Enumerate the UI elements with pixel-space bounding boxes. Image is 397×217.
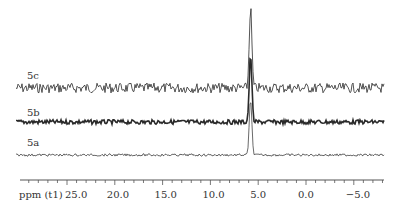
x-tick-label: 0.0 <box>298 189 314 200</box>
x-tick-label: 15.0 <box>155 189 177 200</box>
series-label-5c: 5c <box>27 70 39 81</box>
spectra-traces <box>16 9 384 157</box>
nmr-spectrum-chart: 5c 5b 5a 25.020.015.010.05.00.0−5.0 ppm … <box>0 0 397 217</box>
x-axis-label: ppm (t1) <box>19 189 63 200</box>
spectrum-trace-5b <box>16 59 384 124</box>
series-label-5b: 5b <box>27 107 40 118</box>
spectrum-trace-5a <box>16 103 384 156</box>
x-tick-label: 5.0 <box>250 189 266 200</box>
x-axis: 25.020.015.010.05.00.0−5.0 <box>20 180 384 200</box>
spectrum-trace-5c <box>16 9 384 93</box>
x-tick-label: 25.0 <box>65 189 87 200</box>
x-tick-label: −5.0 <box>346 189 370 200</box>
series-label-5a: 5a <box>27 137 39 148</box>
x-tick-label: 20.0 <box>107 189 129 200</box>
x-tick-label: 10.0 <box>202 189 224 200</box>
